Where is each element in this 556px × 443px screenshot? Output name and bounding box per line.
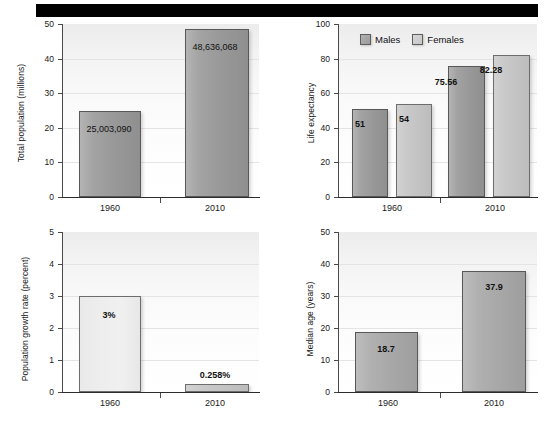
y-tick-label: 80 (296, 54, 330, 64)
x-tick-label: 1960 (352, 203, 432, 213)
y-tick (334, 162, 338, 163)
y-tick-label: 40 (20, 54, 54, 64)
y-tick (58, 296, 62, 297)
legend-item-females[interactable]: Females (412, 34, 463, 45)
y-tick-label: 1 (24, 355, 54, 365)
y-tick (334, 93, 338, 94)
y-tick-label: 60 (296, 88, 330, 98)
y-tick (58, 328, 62, 329)
y-tick-label: 10 (296, 355, 330, 365)
bar-1960[interactable] (355, 332, 418, 392)
bar-value-1960: 3% (69, 310, 149, 320)
x-axis (338, 392, 538, 393)
legend-swatch-males-icon (360, 34, 371, 45)
bar-value-females-1960: 54 (374, 114, 434, 124)
bar-value-2010: 0.258% (175, 370, 255, 380)
y-tick (334, 360, 338, 361)
x-tick-label: 2010 (454, 398, 534, 408)
bar-2010[interactable] (185, 384, 249, 392)
y-tick (334, 59, 338, 60)
y-tick (58, 197, 62, 198)
y-axis (338, 24, 339, 198)
y-tick (58, 59, 62, 60)
chart-total-population: Total population (millions) 0 10 20 30 4… (0, 18, 278, 226)
legend-item-males[interactable]: Males (360, 34, 400, 45)
figure-canvas: Total population (millions) 0 10 20 30 4… (0, 0, 556, 443)
y-tick-label: 3 (24, 291, 54, 301)
y-tick-label: 20 (296, 323, 330, 333)
y-tick-label: 40 (296, 123, 330, 133)
legend: Males Females (360, 34, 464, 45)
redaction-bar (36, 4, 538, 17)
y-axis (62, 232, 63, 393)
chart-life-expectancy: Life expectancy Males Females (278, 18, 556, 226)
y-tick-label: 5 (24, 227, 54, 237)
x-tick-label: 2010 (175, 203, 255, 213)
y-tick-label: 20 (296, 157, 330, 167)
bar-value-2010: 48,636,068 (175, 42, 255, 52)
y-tick-label: 10 (20, 157, 54, 167)
gridline (62, 264, 259, 265)
x-tick (440, 198, 441, 203)
y-tick (334, 328, 338, 329)
y-tick (58, 24, 62, 25)
y-tick-label: 20 (20, 123, 54, 133)
y-tick (58, 162, 62, 163)
bar-2010[interactable] (185, 29, 249, 197)
y-tick (58, 360, 62, 361)
y-tick-label: 0 (296, 387, 330, 397)
plot-area: Males Females (338, 24, 537, 197)
y-tick (58, 93, 62, 94)
bar-value-females-2010: 82.28 (461, 65, 521, 75)
y-tick (334, 264, 338, 265)
y-tick (58, 392, 62, 393)
y-tick-label: 0 (20, 192, 54, 202)
y-tick (334, 197, 338, 198)
y-tick-label: 0 (296, 192, 330, 202)
y-tick-label: 50 (296, 227, 330, 237)
y-tick (58, 232, 62, 233)
y-tick (334, 296, 338, 297)
x-tick-label: 2010 (175, 398, 255, 408)
y-tick-label: 100 (292, 19, 330, 29)
legend-swatch-females-icon (412, 34, 423, 45)
y-tick (334, 232, 338, 233)
x-tick-label: 2010 (455, 203, 535, 213)
y-axis (62, 24, 63, 198)
y-tick (334, 24, 338, 25)
y-tick-label: 50 (20, 19, 54, 29)
gridline (338, 264, 537, 265)
bar-females-2010[interactable] (493, 55, 530, 197)
x-axis (62, 392, 260, 393)
bar-value-1960: 18.7 (346, 344, 426, 354)
y-tick-label: 40 (296, 259, 330, 269)
legend-label-females: Females (427, 34, 463, 45)
y-tick-label: 0 (24, 387, 54, 397)
x-tick-label: 1960 (70, 398, 150, 408)
chart-population-growth-rate: Population growth rate (percent) 0 1 2 3… (0, 226, 278, 443)
y-tick-label: 30 (296, 291, 330, 301)
plot-area (338, 232, 537, 392)
y-tick-label: 2 (24, 323, 54, 333)
y-tick (334, 392, 338, 393)
y-axis-label: Life expectancy (306, 58, 316, 168)
bar-value-1960: 25,003,090 (69, 124, 149, 134)
x-axis (338, 197, 538, 198)
y-tick-label: 30 (20, 88, 54, 98)
y-tick-label: 4 (24, 259, 54, 269)
x-tick-label: 1960 (70, 203, 150, 213)
bar-value-2010: 37.9 (454, 282, 534, 292)
y-axis (338, 232, 339, 393)
x-axis (62, 197, 260, 198)
y-tick (58, 128, 62, 129)
chart-median-age: Median age (years) 0 10 20 30 40 50 1960… (278, 226, 556, 443)
x-tick-label: 1960 (348, 398, 428, 408)
bar-value-males-2010: 75.56 (416, 77, 476, 87)
x-tick (160, 198, 161, 203)
legend-label-males: Males (375, 34, 400, 45)
x-tick (160, 393, 161, 398)
y-tick (58, 264, 62, 265)
x-tick (440, 393, 441, 398)
